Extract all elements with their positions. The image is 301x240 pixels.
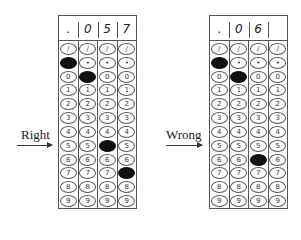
bubble-dot[interactable]: • bbox=[118, 57, 135, 69]
bubble-3[interactable]: 3 bbox=[79, 112, 96, 124]
bubble-dot[interactable]: • bbox=[230, 57, 247, 69]
bubble-8[interactable]: 8 bbox=[118, 181, 135, 193]
bubble-slash[interactable]: / bbox=[99, 43, 116, 55]
bubble-0[interactable]: 0 bbox=[99, 71, 116, 83]
bubble-8[interactable]: 8 bbox=[60, 181, 77, 193]
bubble-4[interactable]: 4 bbox=[79, 126, 96, 138]
bubble-5[interactable]: 5 bbox=[230, 140, 247, 152]
bubble-6[interactable]: 6 bbox=[60, 154, 77, 166]
bubble-9[interactable]: 9 bbox=[60, 195, 77, 207]
bubble-4[interactable]: 4 bbox=[269, 126, 286, 138]
filled-bubble[interactable]: 6 bbox=[250, 154, 267, 166]
bubble-1[interactable]: 1 bbox=[250, 84, 267, 96]
bubble-9[interactable]: 9 bbox=[99, 195, 116, 207]
bubble-3[interactable]: 3 bbox=[60, 112, 77, 124]
bubble-4[interactable]: 4 bbox=[99, 126, 116, 138]
bubble-7[interactable]: 7 bbox=[230, 167, 247, 179]
bubble-5[interactable]: 5 bbox=[60, 140, 77, 152]
bubble-7[interactable]: 7 bbox=[211, 167, 228, 179]
bubble-8[interactable]: 8 bbox=[250, 181, 267, 193]
bubble-9[interactable]: 9 bbox=[118, 195, 135, 207]
bubble-dot[interactable]: • bbox=[269, 57, 286, 69]
bubble-3[interactable]: 3 bbox=[250, 112, 267, 124]
filled-bubble[interactable]: • bbox=[211, 57, 228, 69]
bubble-2[interactable]: 2 bbox=[79, 98, 96, 110]
bubble-1[interactable]: 1 bbox=[79, 84, 96, 96]
bubble-9[interactable]: 9 bbox=[269, 195, 286, 207]
bubble-dot[interactable]: • bbox=[79, 57, 96, 69]
filled-bubble[interactable]: 0 bbox=[79, 71, 96, 83]
bubble-cell: 9 bbox=[249, 194, 268, 208]
bubble-6[interactable]: 6 bbox=[269, 154, 286, 166]
bubble-5[interactable]: 5 bbox=[79, 140, 96, 152]
bubble-9[interactable]: 9 bbox=[211, 195, 228, 207]
bubble-6[interactable]: 6 bbox=[230, 154, 247, 166]
bubble-4[interactable]: 4 bbox=[118, 126, 135, 138]
bubble-dot[interactable]: • bbox=[99, 57, 116, 69]
bubble-slash[interactable]: / bbox=[79, 43, 96, 55]
bubble-slash[interactable]: / bbox=[230, 43, 247, 55]
bubble-0[interactable]: 0 bbox=[269, 71, 286, 83]
bubble-1[interactable]: 1 bbox=[60, 84, 77, 96]
bubble-2[interactable]: 2 bbox=[250, 98, 267, 110]
bubble-8[interactable]: 8 bbox=[211, 181, 228, 193]
bubble-2[interactable]: 2 bbox=[230, 98, 247, 110]
bubble-cell: • bbox=[59, 56, 78, 70]
bubble-slash[interactable]: / bbox=[211, 43, 228, 55]
bubble-6[interactable]: 6 bbox=[118, 154, 135, 166]
bubble-slash[interactable]: / bbox=[250, 43, 267, 55]
bubble-4[interactable]: 4 bbox=[60, 126, 77, 138]
bubble-1[interactable]: 1 bbox=[211, 84, 228, 96]
bubble-5[interactable]: 5 bbox=[118, 140, 135, 152]
bubble-6[interactable]: 6 bbox=[99, 154, 116, 166]
bubble-0[interactable]: 0 bbox=[250, 71, 267, 83]
bubble-7[interactable]: 7 bbox=[79, 167, 96, 179]
filled-bubble[interactable]: 7 bbox=[118, 167, 135, 179]
bubble-slash[interactable]: / bbox=[269, 43, 286, 55]
bubble-9[interactable]: 9 bbox=[79, 195, 96, 207]
filled-bubble[interactable]: • bbox=[60, 57, 77, 69]
bubble-2[interactable]: 2 bbox=[60, 98, 77, 110]
bubble-8[interactable]: 8 bbox=[230, 181, 247, 193]
bubble-4[interactable]: 4 bbox=[250, 126, 267, 138]
bubble-0[interactable]: 0 bbox=[60, 71, 77, 83]
bubble-dot[interactable]: • bbox=[250, 57, 267, 69]
bubble-2[interactable]: 2 bbox=[118, 98, 135, 110]
bubble-4[interactable]: 4 bbox=[230, 126, 247, 138]
bubble-1[interactable]: 1 bbox=[269, 84, 286, 96]
bubble-5[interactable]: 5 bbox=[269, 140, 286, 152]
bubble-5[interactable]: 5 bbox=[250, 140, 267, 152]
bubble-2[interactable]: 2 bbox=[211, 98, 228, 110]
bubble-3[interactable]: 3 bbox=[99, 112, 116, 124]
bubble-6[interactable]: 6 bbox=[79, 154, 96, 166]
bubble-7[interactable]: 7 bbox=[99, 167, 116, 179]
bubble-8[interactable]: 8 bbox=[79, 181, 96, 193]
bubble-7[interactable]: 7 bbox=[250, 167, 267, 179]
bubble-3[interactable]: 3 bbox=[211, 112, 228, 124]
bubble-8[interactable]: 8 bbox=[269, 181, 286, 193]
bubble-0[interactable]: 0 bbox=[118, 71, 135, 83]
bubble-6[interactable]: 6 bbox=[211, 154, 228, 166]
filled-bubble[interactable]: 5 bbox=[99, 140, 116, 152]
bubble-1[interactable]: 1 bbox=[230, 84, 247, 96]
bubble-slash[interactable]: / bbox=[118, 43, 135, 55]
bubble-1[interactable]: 1 bbox=[99, 84, 116, 96]
bubble-4[interactable]: 4 bbox=[211, 126, 228, 138]
filled-bubble[interactable]: 0 bbox=[230, 71, 247, 83]
bubble-1[interactable]: 1 bbox=[118, 84, 135, 96]
bubble-9[interactable]: 9 bbox=[230, 195, 247, 207]
bubble-cell: 4 bbox=[249, 125, 268, 139]
bubble-9[interactable]: 9 bbox=[250, 195, 267, 207]
bubble-5[interactable]: 5 bbox=[211, 140, 228, 152]
bubble-cell: 3 bbox=[79, 111, 98, 125]
bubble-7[interactable]: 7 bbox=[60, 167, 77, 179]
bubble-slash[interactable]: / bbox=[60, 43, 77, 55]
bubble-8[interactable]: 8 bbox=[99, 181, 116, 193]
bubble-2[interactable]: 2 bbox=[99, 98, 116, 110]
bubble-2[interactable]: 2 bbox=[269, 98, 286, 110]
bubble-3[interactable]: 3 bbox=[118, 112, 135, 124]
bubble-3[interactable]: 3 bbox=[269, 112, 286, 124]
bubble-7[interactable]: 7 bbox=[269, 167, 286, 179]
bubble-3[interactable]: 3 bbox=[230, 112, 247, 124]
bubble-0[interactable]: 0 bbox=[211, 71, 228, 83]
